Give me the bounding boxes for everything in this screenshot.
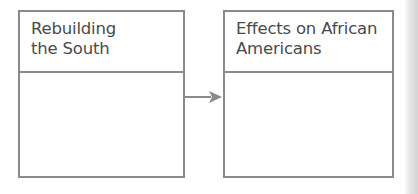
- box-rebuilding-the-south: Rebuilding the South: [18, 10, 185, 178]
- box-title-line1: Rebuilding: [31, 19, 183, 39]
- box-content-area[interactable]: [20, 73, 183, 176]
- box-header: Rebuilding the South: [20, 12, 183, 73]
- box-effects-on-african-americans: Effects on African Americans: [223, 10, 394, 178]
- box-title-line2: the South: [31, 39, 183, 59]
- box-content-area[interactable]: [225, 73, 392, 176]
- box-title-line2: Americans: [236, 39, 392, 59]
- box-header: Effects on African Americans: [225, 12, 392, 73]
- arrow-right-icon: [185, 90, 223, 104]
- box-title-line1: Effects on African: [236, 19, 392, 39]
- page-edge-shadow: [404, 0, 418, 194]
